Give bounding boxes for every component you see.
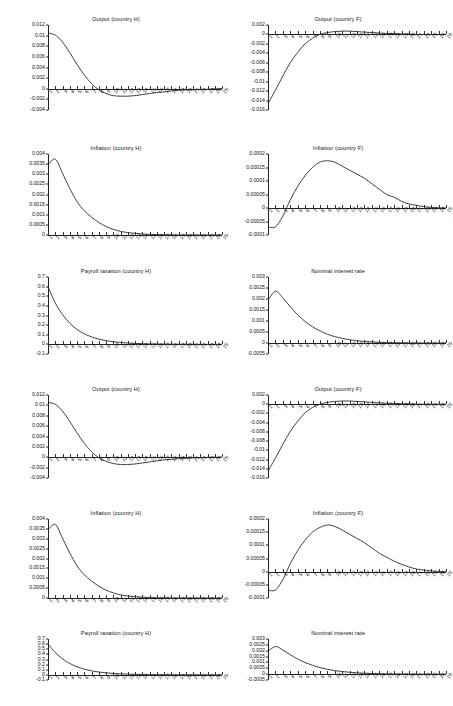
y-tick-label: 0.1 xyxy=(38,332,45,337)
y-tick-label: -0.012 xyxy=(250,89,265,94)
y-tick-label: -0.002 xyxy=(250,41,265,46)
chart-panel-output-f-2: Output (country F)-0.016-0.014-0.012-0.0… xyxy=(228,386,448,500)
chart-panel-nominal-rate-1: Nominal interest rate-0.000500.00050.001… xyxy=(228,268,448,376)
y-tick-label: -0.004 xyxy=(30,475,45,480)
y-tick-label: -0.0005 xyxy=(247,677,265,682)
series-line xyxy=(48,639,222,680)
y-tick-label: 0.0025 xyxy=(249,642,265,647)
axes: 1234567891011121314151617181920212223242… xyxy=(48,277,222,354)
y-tick-label: -0.008 xyxy=(250,70,265,75)
y-tick-label: 0.006 xyxy=(32,54,45,59)
x-axis-labels xyxy=(268,598,446,620)
chart-panel-inflation-h-1: Inflation (country H)00.00050.0010.00150… xyxy=(8,145,224,257)
axes: 1234567891011121314151617181920212223242… xyxy=(268,519,446,598)
chart-panel-output-h-1: Output (country H)-0.004-0.00200.0020.00… xyxy=(8,16,224,132)
axes: 1234567891011121314151617181920212223242… xyxy=(268,25,446,110)
y-tick-label: 0 xyxy=(42,232,45,237)
y-tick-label: 0.008 xyxy=(32,413,45,418)
series-line xyxy=(268,25,446,110)
y-tick-label: 0 xyxy=(262,205,265,210)
x-axis-labels xyxy=(48,598,222,620)
series-line xyxy=(48,277,222,354)
y-tick-label: -0.004 xyxy=(250,420,265,425)
plot-area: -0.004-0.00200.0020.0040.0060.0080.010.0… xyxy=(8,395,224,500)
y-tick-label: 0.0035 xyxy=(29,526,45,531)
y-axis-labels: -0.004-0.00200.0020.0040.0060.0080.010.0… xyxy=(8,25,48,110)
y-tick-label: -0.00005 xyxy=(245,582,265,587)
x-tick-label: 25 xyxy=(446,206,453,213)
axes: 1234567891011121314151617181920212223242… xyxy=(48,639,222,680)
y-tick-label: 0.0005 xyxy=(29,222,45,227)
y-tick-label: 0.4 xyxy=(38,652,45,657)
y-tick-label: 0 xyxy=(262,672,265,677)
y-tick-label: 0.0002 xyxy=(249,516,265,521)
y-tick-label: -0.00005 xyxy=(245,219,265,224)
y-tick-label: 0.012 xyxy=(32,392,45,397)
y-tick-label: -0.0001 xyxy=(247,232,265,237)
y-tick-label: 0.0025 xyxy=(249,285,265,290)
chart-panel-inflation-h-2: Inflation (country H)00.00050.0010.00150… xyxy=(8,510,224,620)
x-axis-labels xyxy=(268,235,446,257)
plot-area: -0.004-0.00200.0020.0040.0060.0080.010.0… xyxy=(8,25,224,132)
x-axis-labels xyxy=(48,680,222,702)
y-tick-label: -0.016 xyxy=(250,107,265,112)
axes: 1234567891011121314151617181920212223242… xyxy=(268,639,446,680)
y-tick-label: 0.00005 xyxy=(246,556,265,561)
y-tick-label: 0.001 xyxy=(252,318,265,323)
series-line xyxy=(268,519,446,598)
y-tick-label: 0.0005 xyxy=(249,666,265,671)
y-tick-label: 0.002 xyxy=(32,76,45,81)
y-tick-label: 0 xyxy=(42,455,45,460)
y-tick-label: 0.002 xyxy=(32,444,45,449)
y-tick-label: 0.1 xyxy=(38,667,45,672)
y-tick-label: 0 xyxy=(42,672,45,677)
y-tick-label: 0.003 xyxy=(32,536,45,541)
x-tick-label: 25 xyxy=(446,32,453,39)
plot-area: 00.00050.0010.00150.0020.00250.0030.0035… xyxy=(8,154,224,257)
axes: 1234567891011121314151617181920212223242… xyxy=(48,25,222,110)
y-tick-label: 0.0025 xyxy=(29,182,45,187)
y-tick-label: 0.0002 xyxy=(249,151,265,156)
x-axis-labels xyxy=(268,110,446,132)
plot-area: -0.100.10.20.30.40.50.60.712345678910111… xyxy=(8,639,224,702)
y-tick-label: 0.008 xyxy=(32,44,45,49)
y-tick-label: -0.014 xyxy=(250,466,265,471)
y-tick-label: -0.01 xyxy=(253,448,265,453)
y-tick-label: 0.01 xyxy=(35,403,45,408)
y-tick-label: 0.004 xyxy=(32,65,45,70)
series-line xyxy=(48,25,222,110)
y-tick-label: -0.006 xyxy=(250,429,265,434)
plot-area: -0.100.10.20.30.40.50.60.712345678910111… xyxy=(8,277,224,376)
x-axis-labels xyxy=(48,235,222,257)
y-tick-label: 0.3 xyxy=(38,657,45,662)
y-tick-label: 0.7 xyxy=(38,274,45,279)
plot-area: -0.000500.00050.0010.00150.0020.00250.00… xyxy=(228,639,448,702)
y-tick-label: 0.5 xyxy=(38,647,45,652)
y-axis-labels: -0.100.10.20.30.40.50.60.7 xyxy=(8,639,48,680)
y-tick-label: 0 xyxy=(262,402,265,407)
y-axis-labels: -0.016-0.014-0.012-0.01-0.008-0.006-0.00… xyxy=(228,395,268,478)
plot-area: 00.00050.0010.00150.0020.00250.0030.0035… xyxy=(8,519,224,620)
x-tick-label: 25 xyxy=(446,402,453,409)
y-tick-label: -0.004 xyxy=(30,107,45,112)
y-tick-label: 0.00005 xyxy=(246,192,265,197)
y-tick-label: -0.0005 xyxy=(247,351,265,356)
y-tick-label: 0.002 xyxy=(252,648,265,653)
y-tick-label: -0.002 xyxy=(30,97,45,102)
x-tick-label: 25 xyxy=(446,570,453,577)
x-axis-labels xyxy=(268,354,446,376)
y-tick-label: 0.0001 xyxy=(249,543,265,548)
plot-area: -0.016-0.014-0.012-0.01-0.008-0.006-0.00… xyxy=(228,395,448,500)
x-axis-labels xyxy=(48,110,222,132)
y-tick-label: -0.004 xyxy=(250,51,265,56)
x-axis-labels xyxy=(268,680,446,702)
y-tick-label: 0.004 xyxy=(32,434,45,439)
y-tick-label: 0.004 xyxy=(32,516,45,521)
y-tick-label: 0 xyxy=(262,569,265,574)
y-tick-label: -0.012 xyxy=(250,457,265,462)
chart-panel-inflation-f-1: Inflation (country F)-0.0001-0.0000500.0… xyxy=(228,145,448,257)
series-line xyxy=(48,519,222,598)
y-axis-labels: 00.00050.0010.00150.0020.00250.0030.0035… xyxy=(8,154,48,235)
y-tick-label: 0.0035 xyxy=(29,162,45,167)
